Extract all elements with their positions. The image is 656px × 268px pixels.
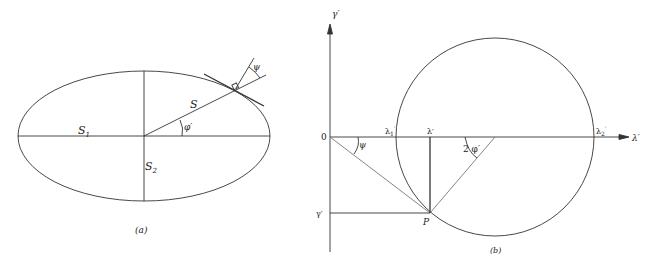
label-x-axis: λ′ xyxy=(631,133,640,143)
label-phi: φ′ xyxy=(184,122,192,132)
caption-a: (a) xyxy=(135,225,148,235)
phi-arc xyxy=(180,120,183,136)
label-lambda2: λ2′ xyxy=(596,125,607,137)
figure-a xyxy=(18,58,270,201)
x-axis-arrow xyxy=(619,135,629,140)
radius-line xyxy=(144,75,266,136)
psi-arc-b xyxy=(354,137,359,154)
caption-b: (b) xyxy=(490,246,501,255)
label-p: P xyxy=(422,217,430,227)
y-axis-arrow xyxy=(328,24,333,34)
origin-to-p-line xyxy=(330,137,430,213)
label-y-axis: γ′ xyxy=(332,9,339,19)
label-2phi: 2 φ′ xyxy=(463,144,480,154)
label-psi-a: ψ xyxy=(253,62,261,72)
label-lambda-prime: λ′ xyxy=(427,127,434,136)
label-gamma-prime: γ′ xyxy=(316,209,323,218)
normal-line xyxy=(236,58,254,88)
strain-diagram: S1 S2 S φ′ ψ (a) γ′ λ′ 0 λ1′ λ′ λ2′ γ′ P… xyxy=(0,0,656,268)
label-lambda1: λ1′ xyxy=(385,125,396,137)
figure-b xyxy=(328,24,630,252)
label-s1: S1 xyxy=(78,124,90,139)
label-origin: 0 xyxy=(321,132,327,142)
label-s2: S2 xyxy=(145,160,158,175)
label-psi-b: ψ xyxy=(359,140,367,150)
label-s: S xyxy=(190,98,198,111)
